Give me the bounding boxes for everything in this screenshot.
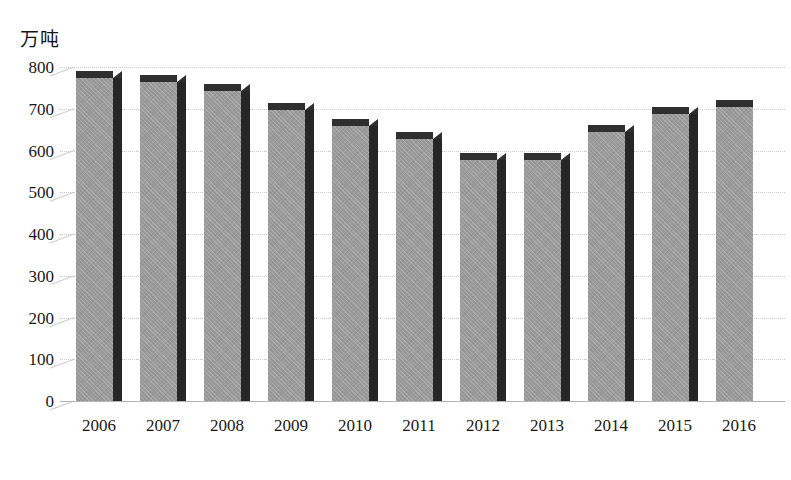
bar-side-face: [369, 126, 378, 401]
y-axis-unit-label: 万吨: [20, 24, 60, 51]
bar-side-face: [177, 82, 186, 401]
y-tick-label: 400: [8, 226, 54, 243]
x-tick-label: 2011: [387, 415, 451, 437]
bar: [204, 84, 250, 401]
bar-top-face: [140, 75, 177, 82]
bar-top-face: [460, 153, 497, 160]
bar-front-face: [588, 132, 625, 401]
y-axis-ticks: 8007006005004003002001000: [0, 67, 54, 401]
x-tick-label: 2015: [643, 415, 707, 437]
y-tick-label: 700: [8, 101, 54, 118]
y-tick-label: 200: [8, 310, 54, 327]
bar-top-face: [268, 103, 305, 110]
bar-front-face: [140, 82, 177, 401]
bar: [332, 119, 378, 401]
bar: [396, 132, 442, 401]
y-tick-label: 300: [8, 268, 54, 285]
y-tick-label: 600: [8, 143, 54, 160]
x-axis-ticks: 2006200720082009201020112012201320142015…: [60, 415, 785, 445]
bar: [76, 71, 122, 401]
bar-top-face: [332, 119, 369, 126]
bar-front-face: [716, 107, 753, 401]
bar-top-face: [716, 100, 753, 107]
x-tick-label: 2013: [515, 415, 579, 437]
x-tick-label: 2016: [707, 415, 771, 437]
bar-front-face: [76, 78, 113, 401]
x-tick-label: 2006: [67, 415, 131, 437]
bar-side-face: [625, 132, 634, 401]
bar-front-face: [524, 160, 561, 401]
gridline: [60, 67, 785, 68]
y-tick-label: 100: [8, 351, 54, 368]
bar-front-face: [204, 91, 241, 401]
bar-side-face: [113, 78, 122, 401]
bar-chart: 万吨 8007006005004003002001000 20062007200…: [0, 0, 791, 480]
bar-front-face: [652, 114, 689, 401]
axis-baseline: [60, 401, 785, 402]
x-tick-label: 2008: [195, 415, 259, 437]
bar-top-face: [588, 125, 625, 132]
bar: [652, 107, 698, 401]
bar-front-face: [268, 110, 305, 402]
bar-side-face: [497, 160, 506, 401]
bar-front-face: [460, 160, 497, 401]
x-tick-label: 2009: [259, 415, 323, 437]
bar: [460, 153, 506, 401]
bar-side-face: [433, 139, 442, 401]
bar-front-face: [396, 139, 433, 401]
y-tick-label: 0: [8, 393, 54, 410]
x-tick-label: 2007: [131, 415, 195, 437]
bar: [588, 125, 634, 401]
bar: [140, 75, 186, 401]
y-tick-label: 500: [8, 184, 54, 201]
bar-top-face: [204, 84, 241, 91]
x-tick-label: 2010: [323, 415, 387, 437]
bar-side-face: [241, 91, 250, 401]
bar-front-face: [332, 126, 369, 401]
bar-top-face: [76, 71, 113, 78]
bar-side-face: [689, 114, 698, 401]
plot-area: [60, 67, 785, 401]
bar: [524, 153, 570, 401]
bar-side-face: [305, 110, 314, 402]
bar-top-face: [396, 132, 433, 139]
bar-top-face: [652, 107, 689, 114]
x-tick-label: 2014: [579, 415, 643, 437]
y-tick-label: 800: [8, 59, 54, 76]
bar: [268, 103, 314, 402]
bar-top-face: [524, 153, 561, 160]
x-tick-label: 2012: [451, 415, 515, 437]
bar-side-face: [561, 160, 570, 401]
bar: [716, 100, 762, 401]
